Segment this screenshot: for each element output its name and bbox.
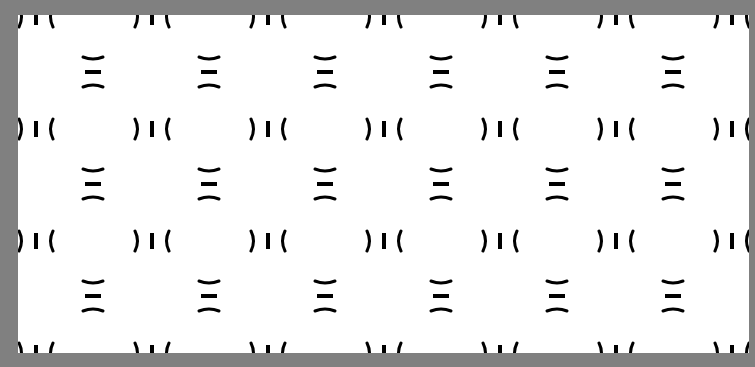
arc-bar-motif bbox=[429, 278, 453, 314]
arc-bar-motif bbox=[545, 54, 569, 90]
paren-bar-motif bbox=[712, 15, 749, 29]
paren-bar-motif bbox=[132, 117, 172, 141]
arc-bar-motif bbox=[81, 54, 105, 90]
paren-bar-motif bbox=[248, 229, 288, 253]
arc-bar-motif bbox=[661, 54, 685, 90]
arc-bar-motif bbox=[429, 54, 453, 90]
paren-bar-motif bbox=[596, 341, 636, 353]
arc-bar-motif bbox=[313, 54, 337, 90]
pattern-canvas bbox=[18, 15, 749, 353]
arc-bar-motif bbox=[661, 166, 685, 202]
arc-bar-motif bbox=[81, 166, 105, 202]
paren-bar-motif bbox=[364, 229, 404, 253]
paren-bar-motif bbox=[480, 341, 520, 353]
paren-bar-motif bbox=[132, 15, 172, 29]
paren-bar-motif bbox=[712, 229, 749, 253]
arc-bar-motif bbox=[545, 278, 569, 314]
paren-bar-motif bbox=[248, 341, 288, 353]
paren-bar-motif bbox=[712, 117, 749, 141]
paren-bar-motif bbox=[480, 15, 520, 29]
paren-bar-motif bbox=[480, 229, 520, 253]
paren-bar-motif bbox=[364, 15, 404, 29]
arc-bar-motif bbox=[429, 166, 453, 202]
paren-bar-motif bbox=[596, 229, 636, 253]
paren-bar-motif bbox=[480, 117, 520, 141]
arc-bar-motif bbox=[313, 166, 337, 202]
arc-bar-motif bbox=[197, 278, 221, 314]
paren-bar-motif bbox=[18, 15, 56, 29]
arc-bar-motif bbox=[661, 278, 685, 314]
paren-bar-motif bbox=[248, 117, 288, 141]
paren-bar-motif bbox=[248, 15, 288, 29]
arc-bar-motif bbox=[81, 278, 105, 314]
paren-bar-motif bbox=[596, 117, 636, 141]
arc-bar-motif bbox=[313, 278, 337, 314]
paren-bar-motif bbox=[364, 341, 404, 353]
paren-bar-motif bbox=[18, 229, 56, 253]
paren-bar-motif bbox=[364, 117, 404, 141]
paren-bar-motif bbox=[596, 15, 636, 29]
paren-bar-motif bbox=[18, 117, 56, 141]
paren-bar-motif bbox=[132, 229, 172, 253]
paren-bar-motif bbox=[18, 341, 56, 353]
arc-bar-motif bbox=[545, 166, 569, 202]
arc-bar-motif bbox=[197, 54, 221, 90]
arc-bar-motif bbox=[197, 166, 221, 202]
paren-bar-motif bbox=[132, 341, 172, 353]
paren-bar-motif bbox=[712, 341, 749, 353]
